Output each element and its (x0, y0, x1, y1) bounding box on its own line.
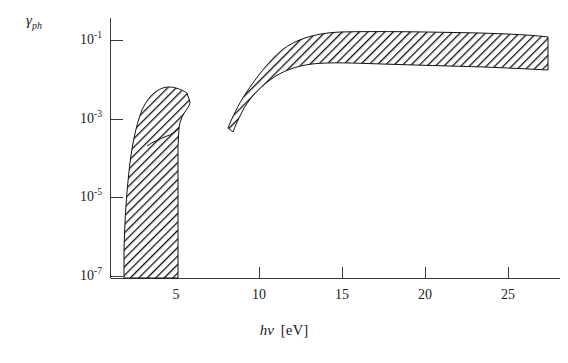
y-tick-mantissa: 10 (80, 268, 94, 283)
y-tick-exponent: -5 (94, 187, 102, 197)
plot-area (0, 0, 568, 363)
y-tick-mantissa: 10 (80, 111, 94, 126)
x-tick-label-25: 25 (488, 288, 528, 302)
x-axis-unit: [eV] (281, 322, 308, 338)
y-tick-mantissa: 10 (80, 32, 94, 47)
band-high-energy (228, 32, 548, 132)
y-tick-mantissa: 10 (80, 189, 94, 204)
x-axis-title: hv[eV] (0, 322, 568, 339)
y-tick-label-1e-3: 10-3 (50, 110, 102, 126)
x-tick-label-15: 15 (322, 288, 362, 302)
y-tick-exponent: -7 (94, 266, 102, 276)
y-axis-title: γph (26, 12, 42, 31)
x-axis-symbol: hv (260, 322, 274, 338)
x-tick-label-5: 5 (156, 288, 196, 302)
y-axis-subscript: ph (32, 20, 42, 31)
y-tick-exponent: -1 (94, 30, 102, 40)
y-tick-exponent: -3 (94, 109, 102, 119)
y-tick-label-1e-7: 10-7 (50, 267, 102, 283)
x-tick-label-20: 20 (405, 288, 445, 302)
y-tick-label-1e-1: 10-1 (50, 31, 102, 47)
y-tick-label-1e-5: 10-5 (50, 188, 102, 204)
band-low-energy (124, 87, 190, 278)
chart-figure: γph 10-1 10-3 10-5 10-7 5 10 15 20 25 hv… (0, 0, 568, 363)
x-tick-label-10: 10 (239, 288, 279, 302)
